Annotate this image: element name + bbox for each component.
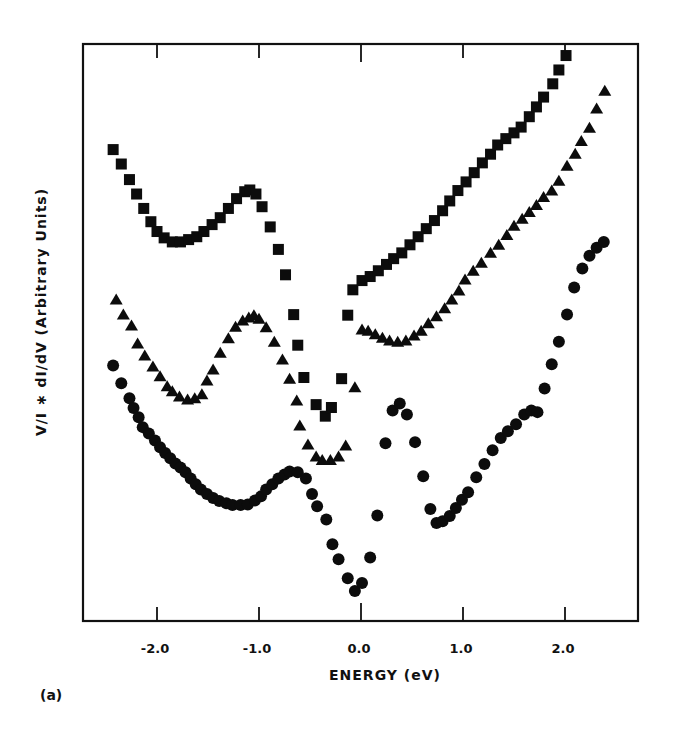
triangle-marker <box>452 284 465 295</box>
circle-marker <box>487 444 499 456</box>
circle-marker <box>333 553 345 565</box>
triangle-marker <box>492 239 505 250</box>
triangle-marker <box>222 332 235 343</box>
triangle-marker <box>348 381 361 392</box>
series-circles <box>107 236 610 597</box>
square-marker <box>288 309 299 320</box>
square-marker <box>531 101 542 112</box>
square-marker <box>342 310 353 321</box>
circle-marker <box>371 509 383 521</box>
square-marker <box>131 189 142 200</box>
triangle-marker <box>283 373 296 384</box>
triangle-marker <box>207 363 220 374</box>
square-marker <box>553 64 564 75</box>
triangle-marker <box>552 175 565 186</box>
triangle-marker <box>545 185 558 196</box>
triangle-marker <box>131 337 144 348</box>
square-marker <box>516 122 527 133</box>
x-tick-label: -2.0 <box>141 641 169 656</box>
circle-marker <box>311 500 323 512</box>
circle-marker <box>568 281 580 293</box>
y-axis-label: V/I ∗ dI/dV (Arbitrary Units) <box>33 188 49 436</box>
triangle-marker <box>301 438 314 449</box>
triangle-marker <box>200 374 213 385</box>
circle-marker <box>424 503 436 515</box>
circle-marker <box>417 470 429 482</box>
square-marker <box>561 50 572 61</box>
square-marker <box>429 215 440 226</box>
triangle-marker <box>110 294 123 305</box>
circle-marker <box>306 488 318 500</box>
square-marker <box>538 92 549 103</box>
square-marker <box>273 244 284 255</box>
circle-marker <box>394 397 406 409</box>
square-marker <box>138 203 149 214</box>
x-tick-label: 1.0 <box>449 641 472 656</box>
triangle-marker <box>569 148 582 159</box>
square-marker <box>298 372 309 383</box>
panel-label: (a) <box>40 687 62 703</box>
triangle-marker <box>290 395 303 406</box>
square-marker <box>292 340 303 351</box>
triangle-marker <box>276 354 289 365</box>
circle-marker <box>478 458 490 470</box>
square-marker <box>547 78 558 89</box>
triangle-marker <box>293 419 306 430</box>
triangle-marker <box>575 135 588 146</box>
circle-marker <box>539 382 551 394</box>
x-tick-label: 2.0 <box>551 641 574 656</box>
x-tick-label: -1.0 <box>243 641 271 656</box>
triangle-marker <box>339 440 352 451</box>
square-marker <box>265 221 276 232</box>
triangle-marker <box>590 103 603 114</box>
square-marker <box>469 167 480 178</box>
square-marker <box>437 205 448 216</box>
series-squares <box>108 50 572 422</box>
square-marker <box>524 111 535 122</box>
square-marker <box>257 201 268 212</box>
triangle-marker <box>268 336 281 347</box>
square-marker <box>326 402 337 413</box>
circle-marker <box>300 472 312 484</box>
square-marker <box>336 373 347 384</box>
triangle-marker <box>583 122 596 133</box>
circle-marker <box>320 513 332 525</box>
circle-marker <box>342 572 354 584</box>
square-marker <box>250 189 261 200</box>
x-tick-label: 0.0 <box>347 641 370 656</box>
triangle-marker <box>561 160 574 171</box>
triangle-marker <box>598 85 611 96</box>
x-axis-label: ENERGY (eV) <box>329 667 441 683</box>
triangle-marker <box>146 361 159 372</box>
square-marker <box>223 203 234 214</box>
chart: -2.0-1.00.01.02.0 ENERGY (eV) V/I ∗ dI/d… <box>0 0 677 748</box>
circle-marker <box>546 358 558 370</box>
square-marker <box>108 144 119 155</box>
circle-marker <box>409 436 421 448</box>
circle-marker <box>401 408 413 420</box>
circle-marker <box>326 538 338 550</box>
circle-marker <box>462 486 474 498</box>
square-marker <box>116 159 127 170</box>
triangle-marker <box>117 309 130 320</box>
triangle-marker <box>125 320 138 331</box>
triangle-marker <box>475 257 488 268</box>
circle-marker <box>553 336 565 348</box>
circle-marker <box>561 309 573 321</box>
triangle-marker <box>195 388 208 399</box>
circle-marker <box>576 262 588 274</box>
triangle-marker <box>138 350 151 361</box>
circle-marker <box>115 377 127 389</box>
circle-marker <box>598 236 610 248</box>
circle-marker <box>364 552 376 564</box>
triangle-marker <box>214 347 227 358</box>
square-marker <box>444 195 455 206</box>
square-marker <box>145 216 156 227</box>
x-tick-labels: -2.0-1.00.01.02.0 <box>141 641 575 656</box>
square-marker <box>124 174 135 185</box>
circle-marker <box>531 406 543 418</box>
circle-marker <box>379 437 391 449</box>
circle-marker <box>470 471 482 483</box>
triangle-marker <box>154 370 167 381</box>
circle-marker <box>107 359 119 371</box>
